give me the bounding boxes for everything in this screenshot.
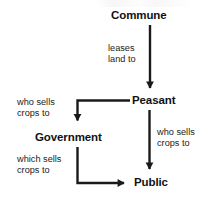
edge-label-line2: crops to — [17, 165, 61, 176]
flowchart-diagram: Commune Peasant Government Public leases… — [0, 0, 210, 200]
edge-label-peasant-to-government: who sells crops to — [17, 97, 55, 119]
node-public: Public — [134, 176, 168, 188]
edge-label-line2: crops to — [157, 138, 195, 149]
edge-label-commune-to-peasant: leases land to — [108, 43, 136, 65]
edge-peasant-to-government — [78, 101, 131, 121]
node-peasant: Peasant — [132, 94, 175, 106]
edge-label-peasant-to-public: who sells crops to — [157, 127, 195, 149]
edge-label-government-to-public: which sells crops to — [17, 154, 61, 176]
edge-label-line2: land to — [108, 54, 136, 65]
node-government: Government — [35, 131, 102, 143]
edge-label-line1: which sells — [17, 154, 61, 165]
edge-label-line1: who sells — [17, 97, 55, 108]
edge-label-line1: who sells — [157, 127, 195, 138]
edge-label-line2: crops to — [17, 108, 55, 119]
edge-label-line1: leases — [108, 43, 136, 54]
node-commune: Commune — [111, 9, 167, 21]
edge-government-to-public — [78, 147, 125, 183]
